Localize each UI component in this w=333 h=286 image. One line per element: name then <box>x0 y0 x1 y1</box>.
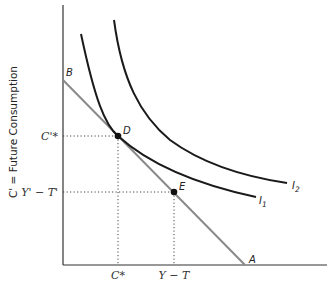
label-b: B <box>66 67 73 78</box>
label-i2: I2 <box>292 180 300 194</box>
point-e <box>171 189 178 196</box>
label-e: E <box>179 181 186 192</box>
tick-c-star: C* <box>111 269 125 282</box>
point-d <box>115 133 122 140</box>
label-a: A <box>248 254 256 265</box>
tick-y-prime-minus-t-prime: Y' − T' <box>21 186 58 199</box>
consumption-diagram: C' = Future Consumption B D E A I1 I2 C'… <box>0 0 333 286</box>
tick-y-minus-t: Y − T <box>159 269 191 282</box>
label-i1: I1 <box>259 195 267 209</box>
budget-line <box>63 80 245 265</box>
indifference-curve-i1 <box>81 34 256 197</box>
label-d: D <box>123 125 131 136</box>
y-axis-label: C' = Future Consumption <box>7 66 19 198</box>
tick-c-prime-star: C'* <box>41 130 58 143</box>
